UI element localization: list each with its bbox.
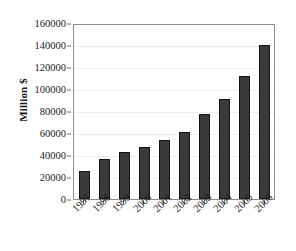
y-tick-mark [67, 178, 71, 179]
x-axis-tick-labels: 1997199819992000200120022003200420052006 [73, 204, 275, 250]
y-tick-label: 100000 [35, 85, 67, 96]
x-tick-label-slot: 1997 [73, 204, 93, 250]
bar-chart: Million $ 020000400006000080000100000120… [0, 0, 296, 251]
y-tick-label: 0 [61, 195, 66, 206]
y-tick-label: 40000 [40, 151, 66, 162]
x-tick-label-slot: 2006 [255, 204, 275, 250]
y-tick-label: 60000 [40, 129, 66, 140]
bar [239, 76, 250, 199]
y-tick-label: 120000 [35, 63, 67, 74]
bar [159, 140, 170, 199]
bar [179, 132, 190, 199]
y-tick-mark [67, 46, 71, 47]
y-tick-label: 80000 [40, 107, 66, 118]
x-tick-label-slot: 2003 [194, 204, 214, 250]
x-tick-label-slot: 1998 [93, 204, 113, 250]
y-axis-title-text: Million $ [17, 78, 29, 121]
bar [219, 99, 230, 199]
y-tick-label: 20000 [40, 173, 66, 184]
bar [199, 114, 210, 199]
x-tick-label-slot: 2000 [134, 204, 154, 250]
y-tick-mark [67, 156, 71, 157]
y-tick-mark [67, 68, 71, 69]
bar [259, 45, 270, 199]
y-tick-mark [67, 200, 71, 201]
y-axis-tick-labels: 0200004000060000800001000001200001400001… [30, 24, 71, 200]
y-tick-label: 140000 [35, 41, 67, 52]
bar [139, 147, 150, 199]
y-tick-mark [67, 24, 71, 25]
y-tick-label: 160000 [35, 19, 67, 30]
x-tick-label-slot: 2004 [214, 204, 234, 250]
x-tick-label-slot: 2005 [235, 204, 255, 250]
y-tick-mark [67, 90, 71, 91]
bar-series [74, 25, 274, 199]
x-tick-label-slot: 1999 [113, 204, 133, 250]
x-tick-label-slot: 2002 [174, 204, 194, 250]
plot-area [73, 24, 275, 200]
x-tick-label-slot: 2001 [154, 204, 174, 250]
y-tick-mark [67, 134, 71, 135]
y-tick-mark [67, 112, 71, 113]
